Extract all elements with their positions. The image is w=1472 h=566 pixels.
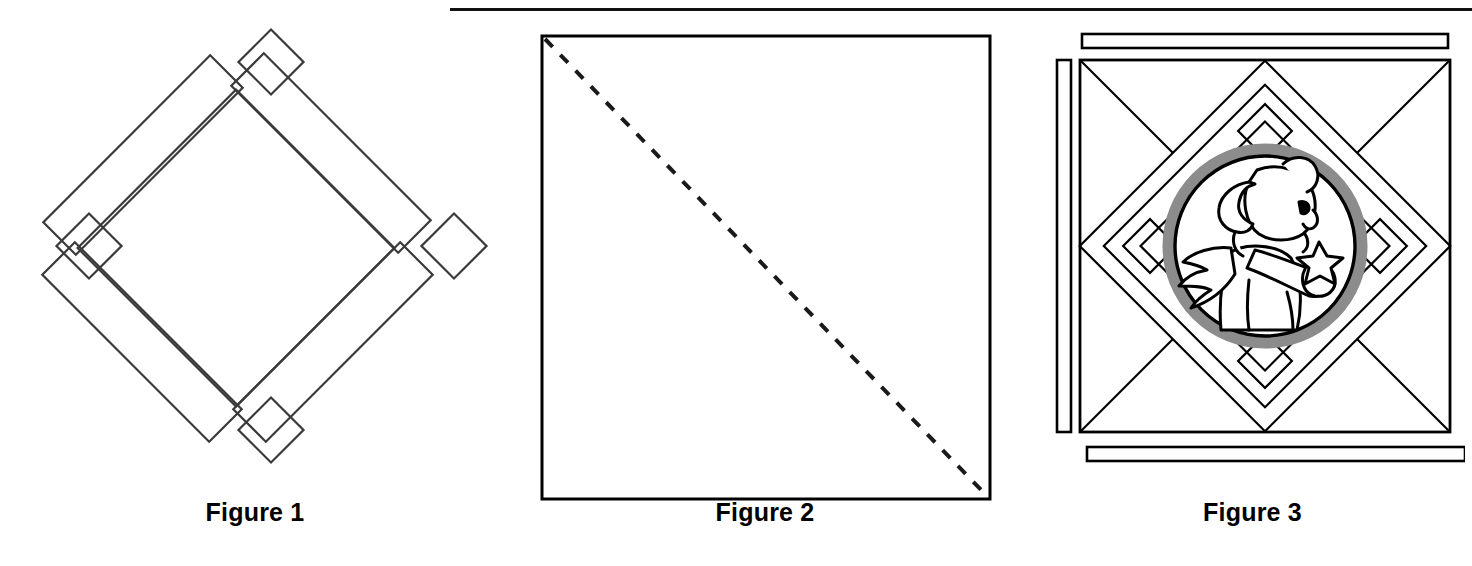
strip-upper-left (43, 55, 242, 254)
horizontal-rule (450, 8, 1472, 11)
corner-diagonal-bottom-left (1080, 339, 1173, 432)
strip-lower-left (42, 242, 241, 441)
figure-3-caption: Figure 3 (1040, 498, 1465, 527)
angel-medallion (1169, 150, 1361, 342)
corner-diagonal-bottom-right (1357, 339, 1450, 432)
figure-1-svg (20, 20, 490, 490)
figure-2-illustration (525, 20, 1005, 510)
figure-1-caption: Figure 1 (20, 498, 490, 527)
corner-diagonal-top-right (1357, 60, 1450, 153)
figure-sheet: Figure 1 Figure 2 (0, 0, 1472, 566)
border-strip-bottom (1087, 447, 1465, 461)
figure-3-svg (1040, 20, 1465, 495)
border-strip-top (1082, 34, 1448, 48)
figure-2-svg (525, 20, 1005, 510)
fold-line-dashed (545, 39, 987, 496)
corner-square-bottom (238, 397, 303, 462)
angel-eye (1299, 201, 1309, 213)
angel-gown-fold (1248, 280, 1250, 330)
figure-3-illustration (1040, 20, 1465, 495)
figure-2-caption: Figure 2 (525, 498, 1005, 527)
border-strip-left (1057, 60, 1071, 432)
strip-lower-right (233, 242, 432, 441)
corner-diagonal-top-left (1080, 60, 1173, 153)
corner-square-right (421, 213, 486, 278)
figure-1-illustration (20, 20, 490, 490)
